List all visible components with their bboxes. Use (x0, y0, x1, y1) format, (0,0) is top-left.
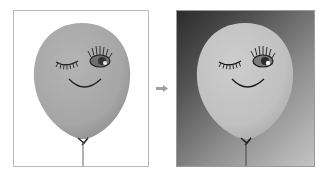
before-image-panel: Original balloon photo (13, 10, 149, 167)
balloon-after (197, 23, 293, 167)
balloon-before (34, 23, 130, 167)
balloon-illustration-after (177, 11, 315, 167)
right-arrow-icon (156, 85, 168, 92)
after-image-panel: Edited balloon photo with dark gradient … (176, 10, 315, 167)
balloon-illustration-before (14, 11, 149, 167)
